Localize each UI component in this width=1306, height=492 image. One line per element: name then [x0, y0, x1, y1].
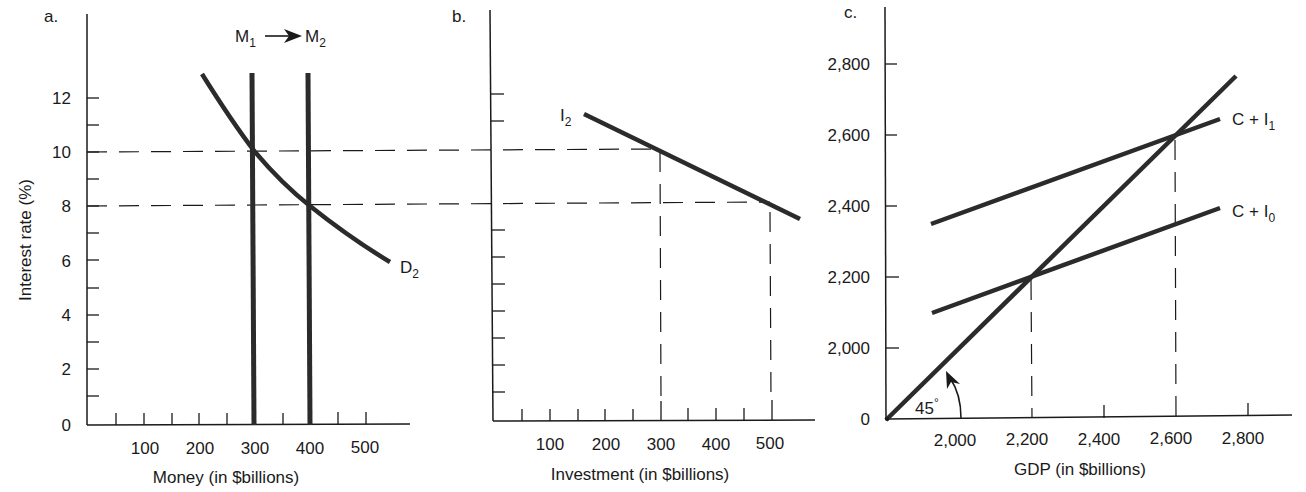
- x-tick-2600: 2,600: [1150, 429, 1193, 448]
- panel-a-x-axis-title: Money (in $billions): [153, 468, 299, 487]
- macro-policy-figure: a. 12 10 8 6 4 2 0: [0, 0, 1306, 492]
- x-tick-2000: 2,000: [934, 431, 977, 450]
- guide-gdp-2200: [1031, 280, 1032, 418]
- panel-b-x-axis-title: Investment (in $billions): [551, 465, 730, 484]
- y-tick-2600: 2,600: [827, 126, 870, 145]
- money-supply-m2-line: [308, 73, 310, 425]
- x-tick-100: 100: [131, 439, 159, 458]
- angle-arrow-icon: [946, 371, 960, 389]
- forty-five-degree-line: [886, 76, 1236, 420]
- panel-c-keynesian-cross: c. 2,800 2,600 2,400 2,200 2,000 0 2,000…: [827, 3, 1292, 479]
- panel-c-y-ticks: [885, 64, 899, 348]
- money-supply-shift-annotation: M1 M2: [235, 27, 326, 50]
- panel-b-letter: b.: [452, 7, 466, 26]
- panel-c-letter: c.: [844, 3, 857, 22]
- panel-a-x-ticks: [116, 412, 366, 425]
- panel-c-x-axis-title: GDP (in $billions): [1014, 460, 1146, 479]
- angle-label: 45°: [915, 396, 939, 418]
- panel-a-money-market: a. 12 10 8 6 4 2 0: [16, 7, 770, 487]
- c-plus-i1-label: C + I1: [1232, 110, 1275, 133]
- panel-a-x-axis: [87, 424, 410, 425]
- y-tick-2400: 2,400: [827, 197, 870, 216]
- panel-a-x-tick-labels: 100 200 300 400 500: [131, 438, 379, 458]
- panel-b-y-axis: [490, 10, 493, 421]
- guide-rate-10: [87, 149, 660, 152]
- x-tick-200: 200: [186, 439, 214, 458]
- x-tick-400: 400: [296, 439, 324, 458]
- y-tick-0: 0: [861, 410, 870, 429]
- x-tick-300: 300: [241, 439, 269, 458]
- guide-rate-8: [87, 202, 770, 206]
- y-tick-8: 8: [62, 197, 71, 216]
- guide-investment-300: [660, 152, 661, 401]
- guide-investment-500: [770, 212, 771, 400]
- money-supply-m1-line: [252, 73, 254, 425]
- panel-a-y-ticks: [87, 98, 99, 396]
- m2-label: M2: [305, 27, 326, 50]
- panel-c-y-axis: [885, 7, 886, 420]
- x-tick-300: 300: [647, 435, 675, 454]
- x-tick-500: 500: [756, 434, 784, 453]
- money-demand-d2-curve: [202, 74, 390, 262]
- panel-a-y-tick-labels: 12 10 8 6 4 2 0: [52, 89, 71, 435]
- x-tick-2200: 2,200: [1006, 430, 1049, 449]
- x-tick-100: 100: [536, 435, 564, 454]
- x-tick-400: 400: [702, 435, 730, 454]
- d2-label: D2: [400, 258, 419, 281]
- panel-c-x-tick-labels: 2,000 2,200 2,400 2,600 2,800: [934, 429, 1265, 450]
- y-tick-2000: 2,000: [827, 339, 870, 358]
- m1-label: M1: [235, 27, 256, 50]
- angle-arc: [950, 378, 961, 418]
- guide-gdp-2600: [1175, 140, 1176, 417]
- panel-a-y-axis-title: Interest rate (%): [16, 179, 35, 301]
- y-tick-12: 12: [52, 89, 71, 108]
- y-tick-2200: 2,200: [827, 268, 870, 287]
- x-tick-500: 500: [351, 438, 379, 457]
- y-tick-10: 10: [52, 143, 71, 162]
- panel-a-letter: a.: [44, 7, 58, 26]
- x-tick-200: 200: [592, 435, 620, 454]
- panel-b-x-ticks: [522, 400, 772, 421]
- x-tick-2400: 2,400: [1078, 430, 1121, 449]
- y-tick-6: 6: [62, 252, 71, 271]
- c-plus-i0-line: [932, 208, 1220, 313]
- panel-b-x-axis: [493, 420, 815, 421]
- y-tick-0: 0: [62, 416, 71, 435]
- y-tick-4: 4: [62, 306, 71, 325]
- y-tick-2800: 2,800: [827, 55, 870, 74]
- y-tick-2: 2: [62, 360, 71, 379]
- panel-c-x-axis: [886, 415, 1292, 419]
- i2-label: I2: [560, 106, 572, 129]
- panel-c-y-tick-labels: 2,800 2,600 2,400 2,200 2,000 0: [827, 55, 870, 429]
- origin-dot: [885, 417, 889, 421]
- x-tick-2800: 2,800: [1222, 429, 1265, 448]
- panel-b-investment: b. 100 200: [452, 7, 815, 484]
- c-plus-i0-label: C + I0: [1232, 202, 1275, 225]
- panel-b-x-tick-labels: 100 200 300 400 500: [536, 434, 784, 454]
